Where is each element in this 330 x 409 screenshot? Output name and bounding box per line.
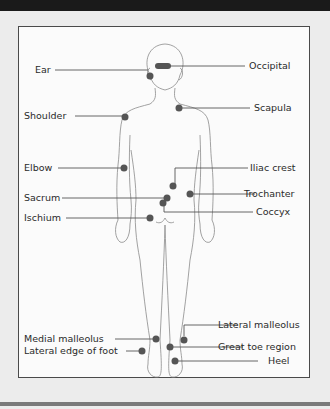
- label-sacrum: Sacrum: [24, 193, 60, 203]
- bottom-rule: [0, 402, 330, 406]
- label-ear: Ear: [35, 65, 51, 75]
- label-occipital: Occipital: [249, 61, 290, 71]
- label-trochanter: Trochanter: [244, 189, 294, 199]
- label-heel: Heel: [268, 356, 289, 366]
- label-medial-malleolus: Medial malleolus: [24, 334, 104, 344]
- label-elbow: Elbow: [24, 163, 52, 173]
- label-lateral-edge-of-foot: Lateral edge of foot: [24, 346, 118, 356]
- label-ischium: Ischium: [24, 213, 61, 223]
- label-shoulder: Shoulder: [24, 111, 66, 121]
- label-great-toe-region: Great toe region: [218, 342, 296, 352]
- label-iliac-crest: Iliac crest: [250, 163, 296, 173]
- label-coccyx: Coccyx: [256, 207, 290, 217]
- label-lateral-malleolus: Lateral malleolus: [218, 320, 300, 330]
- label-scapula: Scapula: [254, 103, 292, 113]
